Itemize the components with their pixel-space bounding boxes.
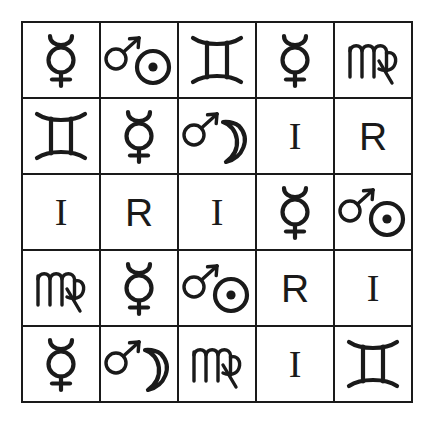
letter-i-glyph: I: [55, 193, 68, 231]
mars-sun-icon: [101, 29, 177, 91]
gemini-icon: [345, 335, 401, 393]
grid-cell-r2c5[interactable]: R: [335, 99, 413, 175]
grid-cell-r3c4[interactable]: [257, 175, 335, 251]
mercury-icon: [112, 257, 166, 319]
mercury-icon: [268, 181, 322, 243]
mercury-icon: [268, 29, 322, 91]
mercury-icon: [34, 333, 88, 395]
cell-letter: I: [257, 99, 333, 173]
letter-r-glyph: R: [359, 117, 387, 156]
grid-cell-r1c4[interactable]: [257, 23, 335, 99]
virgo-icon: [33, 259, 89, 317]
grid-cell-r4c3[interactable]: [179, 251, 257, 327]
letter-i-glyph: I: [289, 117, 302, 155]
grid-cell-r2c1[interactable]: [23, 99, 101, 175]
cell-symbol: [23, 23, 99, 97]
grid-cell-r5c2[interactable]: [101, 327, 179, 403]
grid-cell-r3c2[interactable]: R: [101, 175, 179, 251]
grid-cell-r3c1[interactable]: I: [23, 175, 101, 251]
letter-r-glyph: R: [125, 193, 153, 232]
grid-cell-r4c4[interactable]: R: [257, 251, 335, 327]
cell-symbol: [101, 99, 177, 173]
cell-letter: I: [335, 251, 411, 325]
cell-symbol: [257, 175, 333, 249]
cell-symbol: [179, 251, 255, 325]
mars-moon-icon: [101, 333, 177, 395]
cell-symbol: [23, 327, 99, 401]
letter-i-glyph: I: [211, 193, 224, 231]
cell-symbol: [179, 23, 255, 97]
cell-letter: R: [257, 251, 333, 325]
grid-cell-r2c4[interactable]: I: [257, 99, 335, 175]
cell-symbol: [101, 251, 177, 325]
cell-letter: R: [335, 99, 411, 173]
mercury-icon: [34, 29, 88, 91]
grid-cell-r5c1[interactable]: [23, 327, 101, 403]
gemini-icon: [189, 31, 245, 89]
cell-symbol: [23, 251, 99, 325]
grid-cell-r1c1[interactable]: [23, 23, 101, 99]
cell-letter: I: [23, 175, 99, 249]
mars-sun-icon: [179, 257, 255, 319]
grid-cell-r3c5[interactable]: [335, 175, 413, 251]
mars-sun-icon: [335, 181, 411, 243]
symbol-grid: IRIRIRII: [21, 21, 413, 403]
virgo-icon: [345, 31, 401, 89]
grid-cell-r1c5[interactable]: [335, 23, 413, 99]
cell-symbol: [335, 175, 411, 249]
grid-cell-r1c2[interactable]: [101, 23, 179, 99]
cell-symbol: [257, 23, 333, 97]
virgo-icon: [189, 335, 245, 393]
cell-symbol: [335, 23, 411, 97]
grid-cell-r5c3[interactable]: [179, 327, 257, 403]
grid-cell-r3c3[interactable]: I: [179, 175, 257, 251]
cell-symbol: [335, 327, 411, 401]
grid-cell-r5c4[interactable]: I: [257, 327, 335, 403]
cell-letter: I: [179, 175, 255, 249]
grid-cell-r4c2[interactable]: [101, 251, 179, 327]
cell-symbol: [179, 99, 255, 173]
grid-cell-r4c1[interactable]: [23, 251, 101, 327]
cell-letter: R: [101, 175, 177, 249]
cell-letter: I: [257, 327, 333, 401]
grid-cell-r1c3[interactable]: [179, 23, 257, 99]
grid-cell-r5c5[interactable]: [335, 327, 413, 403]
grid-cell-r2c3[interactable]: [179, 99, 257, 175]
mars-moon-icon: [179, 105, 255, 167]
grid-cell-r4c5[interactable]: I: [335, 251, 413, 327]
cell-symbol: [101, 23, 177, 97]
letter-r-glyph: R: [281, 269, 309, 308]
cell-symbol: [23, 99, 99, 173]
letter-i-glyph: I: [367, 269, 380, 307]
symbol-grid-page: IRIRIRII: [0, 0, 439, 421]
mercury-icon: [112, 105, 166, 167]
cell-symbol: [101, 327, 177, 401]
gemini-icon: [33, 107, 89, 165]
letter-i-glyph: I: [289, 345, 302, 383]
grid-cell-r2c2[interactable]: [101, 99, 179, 175]
cell-symbol: [179, 327, 255, 401]
